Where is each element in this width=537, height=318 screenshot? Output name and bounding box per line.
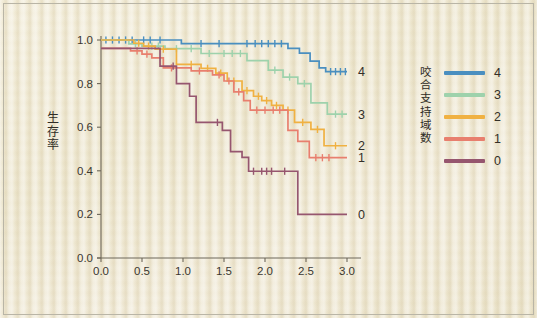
legend: 咬 合 支 持 域 数 43210: [418, 62, 528, 177]
legend-swatch-4: [444, 71, 485, 75]
legend-title: 咬 合 支 持 域 数: [418, 66, 433, 145]
curve-end-label-4: 4: [358, 65, 365, 79]
curve-end-label-3: 3: [358, 108, 365, 122]
legend-item-0[interactable]: 0: [444, 150, 501, 172]
curve-end-label-1: 1: [358, 151, 365, 165]
x-tick-label: 2.0: [257, 265, 273, 277]
legend-label-1: 1: [494, 133, 501, 145]
legend-title-char-3: 支: [418, 92, 433, 105]
x-tick-label: 3.0: [339, 265, 355, 277]
y-tick-label: 0.8: [77, 78, 93, 90]
legend-item-3[interactable]: 3: [444, 84, 501, 106]
legend-label-3: 3: [494, 89, 501, 101]
curve-end-label-0: 0: [358, 208, 365, 222]
legend-swatch-3: [444, 93, 485, 97]
curve-end-labels: 43210: [358, 65, 365, 222]
y-tick-label: 1.0: [77, 34, 93, 46]
y-tick-label: 0.0: [77, 252, 93, 264]
axes-group: 0.00.20.40.60.81.00.00.51.01.52.02.53.0: [77, 34, 361, 277]
legend-swatch-1: [444, 137, 485, 141]
legend-item-4[interactable]: 4: [444, 62, 501, 84]
legend-item-1[interactable]: 1: [444, 128, 501, 150]
x-tick-label: 1.0: [175, 265, 191, 277]
legend-title-char-4: 持: [418, 106, 433, 119]
x-tick-label: 0.0: [93, 265, 109, 277]
curves-group: [101, 36, 347, 214]
legend-title-char-6: 数: [418, 132, 433, 145]
figure-page: 生 存 率 0.00.20.40.60.81.00.00.51.01.52.02…: [0, 0, 537, 318]
x-tick-label: 0.5: [134, 265, 150, 277]
y-tick-label: 0.2: [77, 208, 93, 220]
legend-title-char-2: 合: [418, 79, 433, 92]
legend-items: 43210: [444, 62, 501, 172]
legend-label-2: 2: [494, 111, 501, 123]
legend-title-char-1: 咬: [418, 66, 433, 79]
x-tick-label: 1.5: [216, 265, 232, 277]
legend-swatch-0: [444, 159, 485, 163]
legend-title-char-5: 域: [418, 119, 433, 132]
legend-item-2[interactable]: 2: [444, 106, 501, 128]
legend-swatch-2: [444, 115, 485, 119]
legend-label-0: 0: [494, 155, 501, 167]
x-tick-label: 2.5: [298, 265, 314, 277]
legend-label-4: 4: [494, 67, 501, 79]
y-tick-label: 0.4: [77, 165, 94, 177]
y-tick-label: 0.6: [77, 121, 93, 133]
